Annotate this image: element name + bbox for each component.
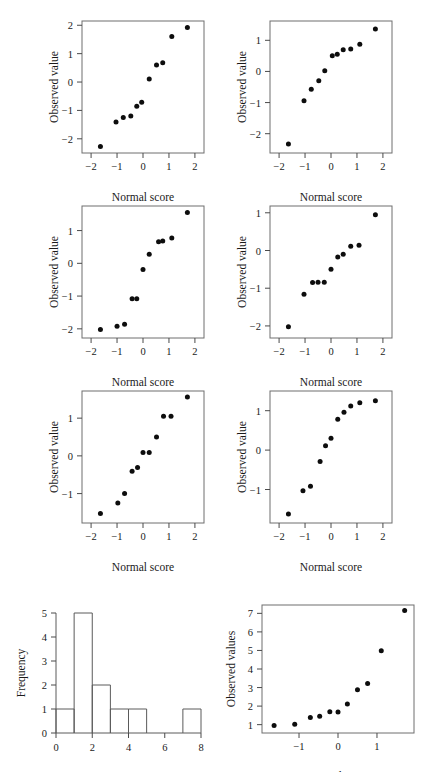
x-tick-label: 0: [140, 531, 145, 542]
y-tick-label: 1: [68, 49, 73, 60]
y-tick-label: 2: [42, 680, 47, 691]
data-point: [348, 244, 353, 249]
data-point: [286, 511, 291, 516]
y-axis-title: Observed value: [236, 51, 248, 123]
data-point: [357, 400, 362, 405]
data-point: [316, 280, 321, 285]
data-point: [323, 443, 328, 448]
data-points: [286, 398, 378, 516]
x-tick-label: 0: [328, 161, 333, 172]
y-tick-label: 0: [256, 445, 261, 456]
y-tick-label: 3: [248, 683, 253, 694]
data-point: [98, 144, 103, 149]
y-tick-label: −1: [250, 485, 261, 496]
data-point: [317, 714, 322, 719]
y-tick-label: −1: [250, 283, 261, 294]
chart-qq-2-panel: −2−1012−2−101Normal scoreObserved value: [238, 8, 398, 188]
x-tick-label: −2: [273, 531, 284, 542]
data-point: [336, 710, 341, 715]
y-tick-label: 2: [248, 701, 253, 712]
plot-frame: [82, 391, 204, 523]
x-tick-label: −1: [111, 346, 122, 357]
histogram-bar: [183, 709, 201, 733]
data-point: [122, 491, 127, 496]
data-point: [185, 395, 190, 400]
data-point: [154, 63, 159, 68]
y-tick-label: 1: [42, 704, 47, 715]
y-axis-title: Observed value: [48, 236, 60, 308]
x-tick-label: 2: [192, 161, 197, 172]
data-points: [98, 395, 190, 517]
x-axis-title: Normal score: [112, 561, 174, 573]
data-point: [160, 60, 165, 65]
data-point: [130, 469, 135, 474]
x-tick-label: −2: [273, 161, 284, 172]
data-point: [355, 687, 360, 692]
y-tick-label: 0: [256, 66, 261, 77]
y-axis-title: Observed value: [236, 421, 248, 493]
y-tick-label: −1: [62, 105, 73, 116]
plot-frame: [270, 206, 392, 338]
data-point: [161, 414, 166, 419]
y-tick-label: 2: [68, 20, 73, 31]
chart-qq-observed-values-panel: −1011234567Normal scoreObserved values: [222, 585, 422, 765]
chart-qq-6-panel: −2−1012−101Normal scoreObserved value: [238, 378, 398, 558]
x-tick-label: 2: [380, 161, 385, 172]
x-tick-label: 0: [140, 161, 145, 172]
x-tick-label: −1: [299, 531, 310, 542]
data-point: [114, 120, 119, 125]
data-point: [98, 327, 103, 332]
data-point: [348, 47, 353, 52]
y-tick-label: 1: [248, 720, 253, 731]
plot-frame: [82, 21, 204, 153]
x-tick-label: 1: [166, 161, 171, 172]
plot-frame: [270, 391, 392, 523]
y-tick-label: 0: [68, 77, 73, 88]
data-point: [292, 722, 297, 727]
data-point: [147, 450, 152, 455]
data-point: [330, 53, 335, 58]
data-point: [134, 104, 139, 109]
data-point: [308, 715, 313, 720]
data-point: [357, 42, 362, 47]
data-point: [329, 436, 334, 441]
data-point: [115, 324, 120, 329]
x-tick-label: 0: [328, 346, 333, 357]
data-point: [318, 459, 323, 464]
data-point: [134, 296, 139, 301]
data-point: [373, 27, 378, 32]
chart-qq-1-panel: −2−1012−2−1012Normal scoreObserved value: [50, 8, 210, 188]
y-axis-title: Observed value: [236, 236, 248, 308]
data-points: [286, 212, 378, 329]
data-point: [141, 450, 146, 455]
x-tick-label: 2: [192, 346, 197, 357]
y-tick-label: 4: [248, 664, 254, 675]
data-point: [322, 68, 327, 73]
data-point: [373, 398, 378, 403]
x-tick-label: −1: [111, 161, 122, 172]
y-tick-label: 1: [256, 208, 261, 219]
data-point: [341, 410, 346, 415]
data-point: [185, 210, 190, 215]
y-axis-title: Observed value: [48, 51, 60, 123]
x-tick-label: 1: [354, 161, 359, 172]
x-tick-label: 1: [166, 346, 171, 357]
y-tick-label: 0: [68, 258, 73, 269]
data-point: [141, 267, 146, 272]
y-tick-label: 5: [248, 645, 253, 656]
y-tick-label: 0: [256, 246, 261, 257]
data-point: [130, 296, 135, 301]
y-axis-title: Observed value: [48, 421, 60, 493]
y-tick-label: 6: [248, 627, 253, 638]
y-tick-label: 1: [68, 226, 73, 237]
data-point: [327, 709, 332, 714]
data-point: [357, 243, 362, 248]
histogram-bar: [56, 709, 74, 733]
histogram-bar: [129, 709, 147, 733]
histogram-bar: [74, 613, 92, 733]
data-point: [402, 608, 407, 613]
x-tick-label: −2: [273, 346, 284, 357]
data-point: [147, 252, 152, 257]
data-point: [300, 488, 305, 493]
chart-qq-5-panel: −2−1012−101Normal scoreObserved value: [50, 378, 210, 558]
